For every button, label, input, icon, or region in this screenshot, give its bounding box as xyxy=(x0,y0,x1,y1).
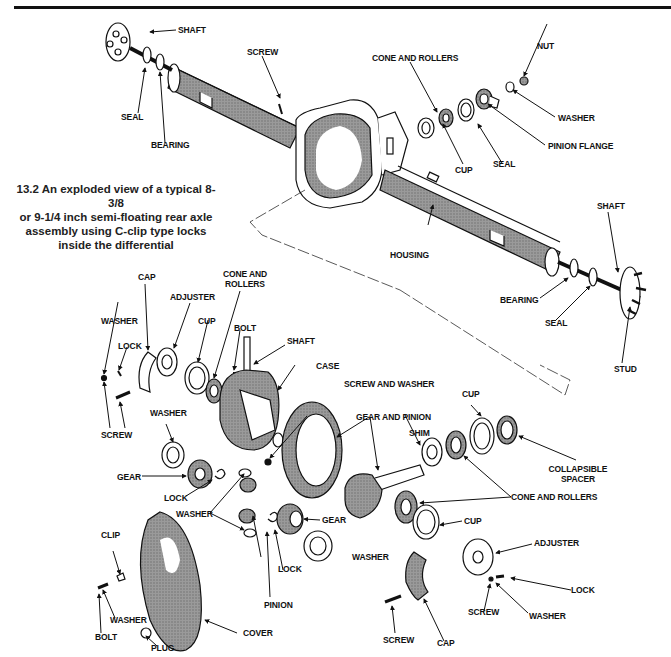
label-diff-cup: CUP xyxy=(198,316,216,326)
label-right-bearing: BEARING xyxy=(500,295,539,305)
label-gear-and-pinion: GEAR AND PINION xyxy=(356,412,431,422)
label-right-adjuster: ADJUSTER xyxy=(534,538,579,548)
label-collapsible-spacer-line1: COLLAPSIBLE xyxy=(548,464,608,474)
label-screw-and-washer: SCREW AND WASHER xyxy=(344,379,434,389)
label-pinion-cone-and-rollers: CONE AND ROLLERS xyxy=(372,53,458,63)
label-left-seal: SEAL xyxy=(121,112,143,122)
right-cap-drawing xyxy=(385,539,504,602)
figure-caption: 13.2 An exploded view of a typical 8-3/8… xyxy=(16,182,216,252)
label-shim: SHIM xyxy=(409,428,430,438)
drive-pinion-drawing xyxy=(345,416,517,539)
label-gear-left: GEAR xyxy=(117,472,141,482)
label-right-washer: WASHER xyxy=(529,611,566,621)
label-clip: CLIP xyxy=(101,530,120,540)
label-pinion-cup: CUP xyxy=(455,165,473,175)
label-diff-screw: SCREW xyxy=(101,430,132,440)
label-washer-mid: WASHER xyxy=(176,509,213,519)
label-right-seal: SEAL xyxy=(545,318,567,328)
label-pinion-seal: SEAL xyxy=(493,159,515,169)
label-collapsible-spacer: COLLAPSIBLE SPACER xyxy=(548,464,608,484)
label-lock-left: LOCK xyxy=(164,493,188,503)
axle-housing-drawing xyxy=(106,23,646,319)
label-diff-cone-and-rollers: CONE AND ROLLERS xyxy=(221,269,269,289)
label-diff-lock: LOCK xyxy=(118,341,142,351)
label-diff-cone-and-rollers-line1: CONE AND xyxy=(221,269,269,279)
label-diff-cone-and-rollers-line2: ROLLERS xyxy=(221,279,269,289)
label-housing: HOUSING xyxy=(390,250,429,260)
label-plug: PLUG xyxy=(151,643,174,653)
label-cover: COVER xyxy=(243,628,273,638)
caption-line-1: 13.2 An exploded view of a typical 8-3/8 xyxy=(16,182,216,210)
label-washer-right: WASHER xyxy=(352,552,389,562)
label-gear-right: GEAR xyxy=(322,515,346,525)
label-stud: STUD xyxy=(614,364,637,374)
label-collapsible-spacer-line2: SPACER xyxy=(548,474,608,484)
label-diff-bolt: BOLT xyxy=(234,323,256,333)
differential-drawing xyxy=(102,337,343,561)
label-diff-shaft: SHAFT xyxy=(287,336,315,346)
label-diff-washer: WASHER xyxy=(101,316,138,326)
label-cover-bolt: BOLT xyxy=(95,632,117,642)
label-cover-washer: WASHER xyxy=(110,615,147,625)
caption-line-4: inside the differential xyxy=(16,238,216,252)
caption-line-3: assembly using C-clip type locks xyxy=(16,224,216,238)
caption-line-2: or 9-1/4 inch semi-floating rear axle xyxy=(16,210,216,224)
label-left-shaft: SHAFT xyxy=(178,25,206,35)
label-right-screw-small: SCREW xyxy=(468,607,499,617)
label-housing-screw: SCREW xyxy=(247,47,278,57)
label-pinion-cup-top: CUP xyxy=(462,389,480,399)
label-diff-case: CASE xyxy=(316,361,339,371)
label-diff-adjuster: ADJUSTER xyxy=(170,292,215,302)
label-right-cap: CAP xyxy=(437,638,455,648)
label-diff-cap: CAP xyxy=(138,272,156,282)
label-pinion-flange: PINION FLANGE xyxy=(548,141,613,151)
label-lock-right: LOCK xyxy=(278,564,302,574)
label-gears-washer-top: WASHER xyxy=(150,408,187,418)
label-right-lock: LOCK xyxy=(571,585,595,595)
label-pinion: PINION xyxy=(264,600,293,610)
label-pinion-washer: WASHER xyxy=(558,113,595,123)
label-pinion-cup-bottom: CUP xyxy=(464,516,482,526)
label-right-screw: SCREW xyxy=(383,635,414,645)
label-left-bearing: BEARING xyxy=(151,140,190,150)
label-nut: NUT xyxy=(537,41,554,51)
label-right-shaft: SHAFT xyxy=(597,201,625,211)
exploded-axle-illustration xyxy=(0,0,671,657)
label-pinion-cone-and-rollers-lower: CONE AND ROLLERS xyxy=(511,492,597,502)
